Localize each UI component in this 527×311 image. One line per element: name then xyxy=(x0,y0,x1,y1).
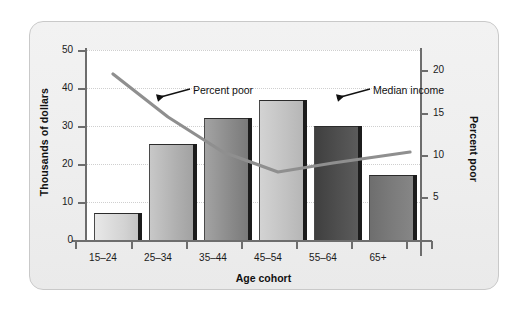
bar-35-44 xyxy=(204,118,248,240)
x-tick-2 xyxy=(186,241,188,249)
x-tick-0 xyxy=(75,241,77,249)
y-label-right-5: 5 xyxy=(433,192,463,202)
x-tick-7 xyxy=(431,241,433,249)
plot-area xyxy=(86,50,420,240)
y-tick-left-30 xyxy=(78,126,85,128)
x-tick-5 xyxy=(351,241,353,249)
bar-shadow xyxy=(413,175,417,240)
gridline-30 xyxy=(86,126,420,128)
x-tick-6 xyxy=(406,241,408,249)
x-axis-line xyxy=(72,240,432,242)
bar-15-24 xyxy=(94,213,138,240)
bar-25-34 xyxy=(149,144,193,240)
y-axis-right-line xyxy=(420,48,422,256)
y-tick-right-15 xyxy=(421,113,428,115)
y-label-right-20: 20 xyxy=(433,65,463,75)
x-axis-title: Age cohort xyxy=(0,272,527,284)
y-tick-left-0 xyxy=(78,240,85,242)
y-tick-left-40 xyxy=(78,88,85,90)
y-tick-left-50 xyxy=(78,50,85,52)
x-label-35-44: 35–44 xyxy=(185,252,241,263)
chart-figure: 50 40 30 20 10 0 20 15 10 5 15–24 25–34 … xyxy=(0,0,527,311)
annotation-median-income: Median income xyxy=(373,84,444,96)
y-tick-right-20 xyxy=(421,70,428,72)
x-tick-3 xyxy=(241,241,243,249)
bar-65-plus xyxy=(369,175,413,240)
bar-shadow xyxy=(138,213,142,240)
gridline-50 xyxy=(86,50,420,52)
x-tick-4 xyxy=(296,241,298,249)
y-tick-left-10 xyxy=(78,202,85,204)
y-label-left-50: 50 xyxy=(33,45,73,55)
y-label-left-10: 10 xyxy=(33,197,73,207)
bar-shadow xyxy=(193,144,197,240)
annotation-percent-poor: Percent poor xyxy=(193,84,253,96)
y-label-right-10: 10 xyxy=(433,150,463,160)
y-axis-right-title: Percent poor xyxy=(466,116,480,182)
y-label-right-15: 15 xyxy=(433,108,463,118)
y-tick-right-5 xyxy=(421,197,428,199)
gridline-20 xyxy=(86,164,420,166)
x-label-45-54: 45–54 xyxy=(240,252,296,263)
x-label-15-24: 15–24 xyxy=(75,252,131,263)
bar-shadow xyxy=(303,100,307,240)
y-axis-left-title: Thousands of dollars xyxy=(38,88,52,196)
x-label-25-34: 25–34 xyxy=(130,252,186,263)
bar-55-64 xyxy=(314,126,358,240)
y-tick-right-10 xyxy=(421,155,428,157)
y-axis-left-line xyxy=(85,48,87,242)
y-tick-left-20 xyxy=(78,164,85,166)
x-label-55-64: 55–64 xyxy=(295,252,351,263)
x-label-65-plus: 65+ xyxy=(350,252,406,263)
bar-shadow xyxy=(248,118,252,240)
bar-shadow xyxy=(358,126,362,240)
y-label-left-0: 0 xyxy=(33,235,73,245)
bar-45-54 xyxy=(259,100,303,240)
x-tick-1 xyxy=(131,241,133,249)
